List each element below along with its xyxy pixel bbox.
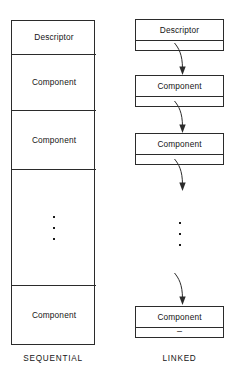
sequential-cell-label: Component — [32, 136, 76, 144]
link-arrow-1 — [165, 42, 195, 78]
sequential-caption: SEQUENTIAL — [11, 355, 95, 363]
link-arrow-4 — [165, 272, 195, 308]
linked-node-label: Component — [157, 140, 201, 148]
linked-node-data-cell: Descriptor — [135, 19, 224, 40]
linked-node-null-pointer-cell: – — [135, 327, 224, 338]
link-arrow-3 — [165, 158, 195, 194]
linked-node-data-cell: Component — [135, 75, 224, 96]
sequential-cell-component-2: Component — [12, 111, 96, 170]
sequential-cell-component-last: Component — [12, 286, 96, 344]
linked-node-label: Descriptor — [160, 26, 199, 34]
sequential-cell-ellipsis — [12, 170, 96, 286]
linked-node-data-cell: Component — [135, 133, 224, 154]
diagram-canvas: Descriptor Component Component Component… — [0, 0, 235, 378]
linked-caption: LINKED — [135, 355, 224, 363]
linked-node-label: Component — [157, 313, 201, 321]
sequential-cell-component-1: Component — [12, 55, 96, 111]
vertical-ellipsis-icon — [53, 216, 55, 240]
sequential-cell-descriptor: Descriptor — [12, 21, 96, 55]
linked-node-label: Component — [157, 82, 201, 90]
linked-node-data-cell: Component — [135, 306, 224, 327]
linked-vertical-ellipsis-icon — [176, 222, 184, 246]
sequential-block: Descriptor Component Component Component — [11, 20, 95, 345]
sequential-cell-label: Descriptor — [34, 33, 73, 41]
linked-node-pointer-value: – — [177, 327, 182, 336]
linked-node-component-last: Component – — [135, 306, 224, 338]
sequential-cell-label: Component — [32, 78, 76, 86]
link-arrow-2 — [165, 100, 195, 136]
sequential-cell-label: Component — [32, 311, 76, 319]
